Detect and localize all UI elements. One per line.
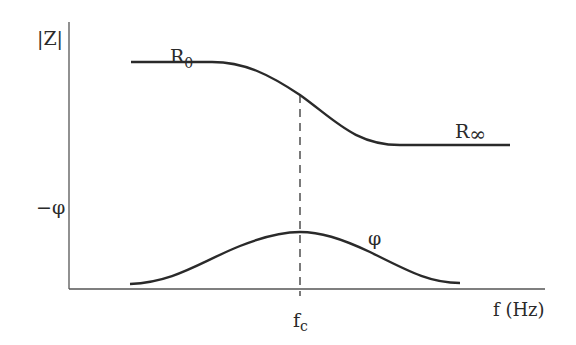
fc-label: fc [293,309,308,334]
rinf-main: R [455,120,470,142]
fc-sub: c [300,318,308,334]
r0-label: R0 [170,45,193,71]
y-axis-label-magnitude: |Z| [37,27,63,50]
phase-curve-label: φ [368,227,381,249]
r0-main: R [170,45,185,67]
impedance-diagram: |Z| −φ R0 R∞ φ fc f (Hz) [0,0,576,345]
rinf-sub: ∞ [469,122,486,146]
phase-curve [130,232,460,284]
magnitude-curve [131,62,510,145]
r0-sub: 0 [184,55,193,71]
x-axis-label: f (Hz) [493,299,545,320]
y-axis-label-phase: −φ [36,196,65,218]
rinf-label: R∞ [455,120,486,146]
